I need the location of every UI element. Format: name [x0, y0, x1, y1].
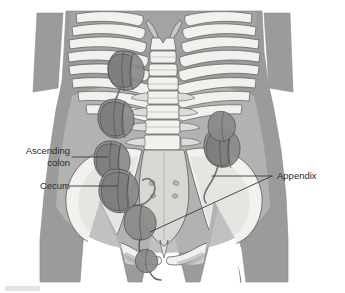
anatomy-figure: Ascending colon Cecum Appendix — [0, 0, 345, 293]
corner-mark — [5, 286, 40, 291]
label-cecum: Cecum — [6, 180, 70, 192]
label-ascending-colon: Ascending colon — [6, 145, 70, 168]
appendix-position-left-upper — [208, 111, 235, 142]
appendix-position-mid — [98, 99, 134, 138]
label-appendix: Appendix — [277, 170, 317, 182]
